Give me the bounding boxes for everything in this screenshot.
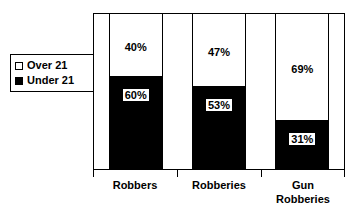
bar-label-over-21-robbers: 40%	[125, 41, 147, 53]
bar-label-over-21-robberies: 47%	[208, 46, 230, 58]
bar-segment-over-21-robbers: 40%	[110, 14, 162, 76]
bar-segment-under-21-gun-robberies: 31%	[276, 120, 328, 169]
bar-label-under-21-robberies: 53%	[206, 99, 232, 111]
x-axis-label-robbers-line-1: Robbers	[93, 178, 177, 192]
x-axis-label-gun-robberies-line-2: Robberies	[261, 192, 345, 206]
legend-label-over-21: Over 21	[27, 59, 67, 72]
x-axis-label-robbers: Robbers	[93, 178, 177, 216]
bar-label-over-21-gun-robberies: 69%	[291, 63, 313, 75]
x-axis-label-gun-robberies: Gun Robberies	[261, 178, 345, 216]
x-axis-ticks	[93, 170, 345, 177]
bar-slot-robberies: 47% 53%	[177, 14, 260, 169]
bar-label-under-21-gun-robberies: 31%	[289, 133, 315, 145]
axis-tick-start	[93, 170, 94, 177]
stacked-bar-robbers: 40% 60%	[109, 14, 163, 169]
bar-slot-gun-robberies: 69% 31%	[261, 14, 344, 169]
bar-segment-under-21-robbers: 60%	[110, 76, 162, 169]
axis-tick-1	[177, 170, 178, 177]
axis-tick-2	[261, 170, 262, 177]
stacked-bar-gun-robberies: 69% 31%	[275, 14, 329, 169]
plot-area: 40% 60% 47% 53%	[93, 13, 345, 170]
x-axis-label-gun-robberies-line-1: Gun	[261, 178, 345, 192]
legend-swatch-filled-square-icon	[15, 77, 23, 85]
stacked-bar-robberies: 47% 53%	[192, 14, 246, 169]
x-axis-label-robberies: Robberies	[177, 178, 261, 216]
x-axis-label-robberies-line-1: Robberies	[177, 178, 261, 192]
bar-segment-under-21-robberies: 53%	[193, 86, 245, 169]
x-axis-labels: Robbers Robberies Gun Robberies	[93, 178, 345, 216]
chart-legend: Over 21 Under 21	[10, 54, 94, 92]
axis-tick-end	[344, 170, 345, 177]
bar-label-under-21-robbers: 60%	[123, 89, 149, 101]
bar-slot-robbers: 40% 60%	[94, 14, 177, 169]
legend-swatch-open-square-icon	[15, 62, 23, 70]
legend-item-over-21: Over 21	[15, 58, 89, 73]
stacked-bar-chart: Over 21 Under 21 40% 60%	[0, 0, 356, 217]
legend-label-under-21: Under 21	[27, 74, 74, 87]
bar-group: 40% 60% 47% 53%	[94, 14, 344, 169]
legend-item-under-21: Under 21	[15, 73, 89, 88]
bar-segment-over-21-gun-robberies: 69%	[276, 14, 328, 120]
bar-segment-over-21-robberies: 47%	[193, 14, 245, 86]
